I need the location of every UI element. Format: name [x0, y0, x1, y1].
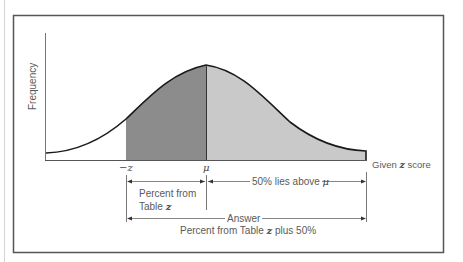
bracket-right-text: 50% lies above μ [252, 176, 329, 187]
region-z-to-mu [126, 65, 206, 160]
region-above-mu [206, 65, 366, 160]
answer-text: Percent from Table z plus 50% [180, 225, 316, 236]
y-axis-label: Frequency [27, 63, 38, 110]
tick-neg-z: −z [119, 162, 133, 173]
arrowhead-right [361, 180, 366, 184]
arrowhead-left [208, 180, 213, 184]
x-axis-end-label: Given z score [372, 159, 431, 170]
bracket-left-text-1: Percent from [139, 188, 196, 199]
bracket-left-text-2: Table z [139, 201, 172, 212]
arrowhead-right [361, 217, 366, 221]
arrowhead-left [127, 180, 132, 184]
arrowhead-right [200, 180, 205, 184]
arrowhead-left [127, 217, 132, 221]
tick-mu: μ [203, 162, 210, 173]
answer-label: Answer [227, 213, 261, 224]
normal-curve-diagram: Frequency −z μ Given z score Percent fro… [0, 0, 463, 262]
